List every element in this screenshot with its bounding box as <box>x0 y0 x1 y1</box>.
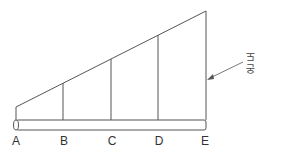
annotation-arrow <box>210 62 243 78</box>
arrow-head-icon <box>207 74 214 80</box>
point-label-c: C <box>108 134 117 148</box>
point-label-e: E <box>201 134 209 148</box>
rod-end-cap <box>14 120 19 130</box>
point-label-d: D <box>155 134 164 148</box>
point-label-a: A <box>12 134 20 148</box>
temperature-annotation: 온도 <box>243 50 258 74</box>
point-label-b: B <box>60 134 68 148</box>
diagram-canvas <box>0 0 285 150</box>
rod <box>16 120 206 130</box>
